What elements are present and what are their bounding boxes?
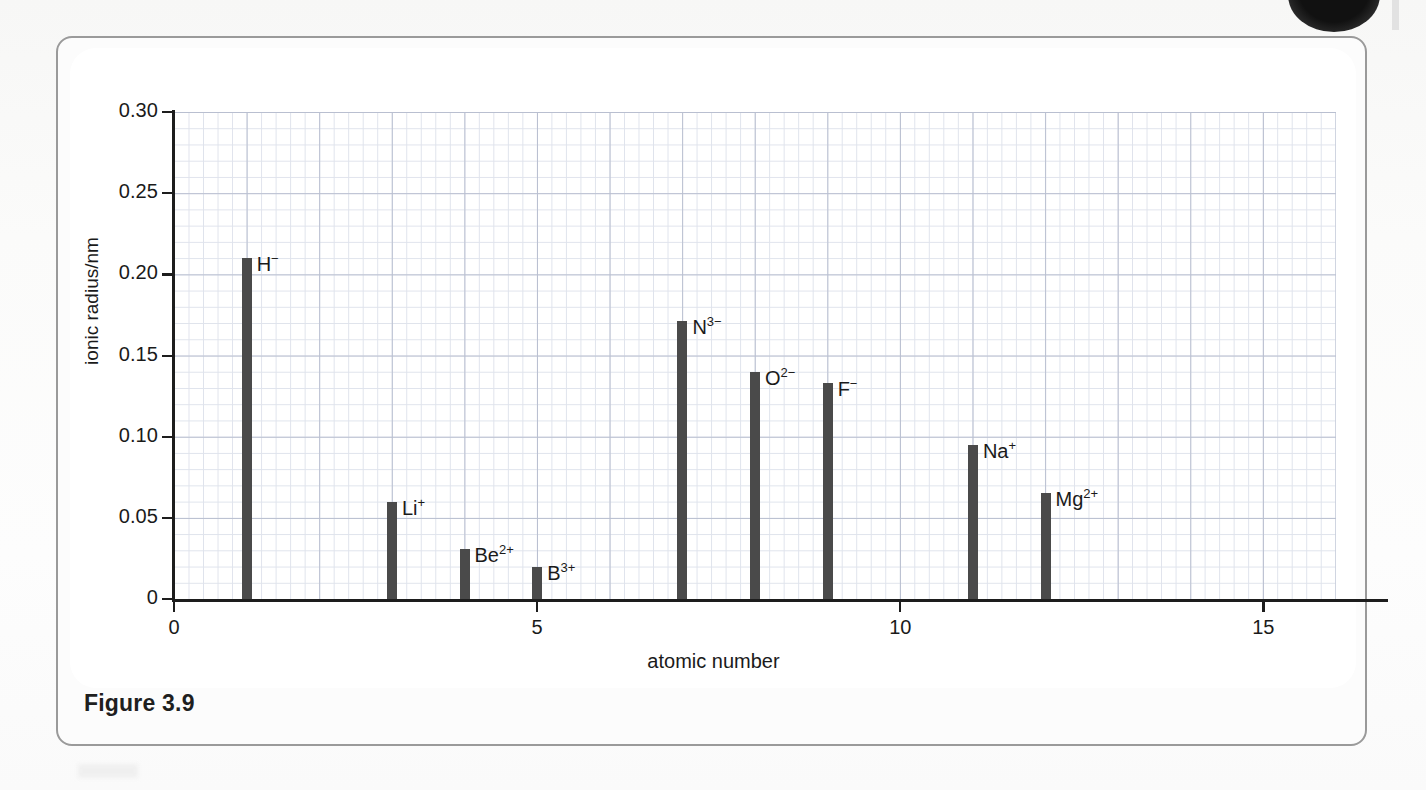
x-axis-tick-label: 5	[532, 616, 543, 639]
y-axis-tick-label: 0.05	[119, 505, 158, 528]
y-axis-tick-label: 0.15	[119, 343, 158, 366]
x-axis-title: atomic number	[58, 650, 1369, 673]
y-axis-tick-label: 0.30	[119, 99, 158, 122]
bar	[460, 549, 470, 599]
bar	[532, 567, 542, 599]
y-axis-tick-label: 0.25	[119, 180, 158, 203]
scan-edge-mark	[1392, 0, 1399, 30]
x-axis-tick-label: 0	[168, 616, 179, 639]
bar-label: H−	[257, 253, 279, 276]
ionic-radius-bar-chart: 00.050.100.150.200.250.30 051015 H−Li+Be…	[58, 38, 1369, 748]
figure-frame: 00.050.100.150.200.250.30 051015 H−Li+Be…	[56, 36, 1367, 746]
bar-label: B3+	[547, 562, 575, 585]
x-axis-tick	[899, 600, 901, 612]
bar	[823, 383, 833, 599]
x-axis-tick-label: 10	[889, 616, 911, 639]
x-axis-tick	[1262, 600, 1264, 612]
y-axis-tick	[162, 111, 173, 113]
y-axis-tick	[162, 273, 173, 275]
bar	[242, 258, 252, 599]
x-axis-line	[172, 599, 1388, 602]
bar	[387, 502, 397, 599]
bar-label: Be2+	[475, 544, 514, 567]
bar	[1041, 493, 1051, 599]
y-axis-tick	[162, 436, 173, 438]
y-axis-tick-label: 0.20	[119, 261, 158, 284]
bar	[677, 321, 687, 599]
y-axis-tick	[162, 517, 173, 519]
bar-label: Mg2+	[1056, 488, 1099, 511]
y-axis-tick-label: 0.10	[119, 424, 158, 447]
x-axis-tick	[536, 600, 538, 612]
x-axis-tick-label: 15	[1252, 616, 1274, 639]
figure-caption: Figure 3.9	[84, 690, 195, 717]
y-axis-tick	[162, 355, 173, 357]
bar-label: Li+	[402, 497, 425, 520]
bar-label: F−	[838, 378, 858, 401]
bar-label: N3−	[692, 316, 721, 339]
bar-label: Na+	[983, 440, 1016, 463]
bar	[968, 445, 978, 599]
x-axis-tick	[173, 600, 175, 612]
y-axis-tick	[162, 192, 173, 194]
y-axis-tick-label: 0	[147, 586, 158, 609]
bar	[750, 372, 760, 599]
bar-label: O2−	[765, 367, 795, 390]
scanned-page: 00.050.100.150.200.250.30 051015 H−Li+Be…	[0, 0, 1426, 790]
y-axis-title: ionic radius/nm	[81, 201, 103, 401]
scan-artifact-blob	[1288, 0, 1380, 32]
y-axis-tick	[162, 598, 173, 600]
scan-smudge	[78, 764, 138, 778]
